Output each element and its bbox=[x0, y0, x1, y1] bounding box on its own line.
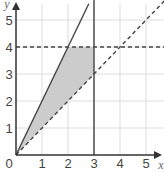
x-tick-label: 2 bbox=[64, 156, 71, 171]
y-tick-label: 2 bbox=[5, 94, 12, 109]
y-tick-label: 4 bbox=[5, 40, 12, 55]
x-tick-label: 4 bbox=[116, 156, 123, 171]
y-axis-label: y bbox=[3, 0, 10, 11]
x-tick-label: 1 bbox=[38, 156, 45, 171]
x-tick-label: 3 bbox=[90, 156, 97, 171]
tick-labels: 01234512345yx bbox=[3, 0, 164, 172]
x-tick-label: 5 bbox=[142, 156, 149, 171]
chart: 01234512345yx bbox=[0, 0, 164, 173]
y-tick-label: 1 bbox=[5, 121, 12, 136]
y-tick-label: 3 bbox=[5, 67, 12, 82]
x-tick-label: 0 bbox=[5, 156, 12, 171]
x-axis-label: x bbox=[157, 158, 164, 172]
y-axis-arrow-icon bbox=[12, 2, 20, 10]
y-tick-label: 5 bbox=[5, 13, 12, 28]
